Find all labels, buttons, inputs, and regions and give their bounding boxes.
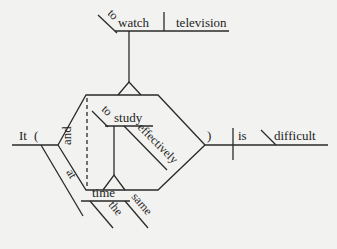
lower-frame xyxy=(58,145,205,190)
lower-infinitive-phrase: to study effectively xyxy=(92,102,181,190)
same-label: same xyxy=(129,190,156,218)
and-label: and xyxy=(59,126,74,145)
to-marker-label-2: to xyxy=(99,102,116,119)
time-label: time xyxy=(92,185,115,200)
open-paren-label: ( xyxy=(34,128,38,143)
watch-label: watch xyxy=(118,15,150,30)
prepositional-phrase: at time the same xyxy=(41,145,155,228)
study-label: study xyxy=(114,110,143,125)
at-slant-line xyxy=(41,145,83,216)
at-label: at xyxy=(63,167,80,182)
is-label: is xyxy=(238,128,247,143)
effectively-label: effectively xyxy=(135,120,181,166)
sentence-diagram: to watch television and to study effecti… xyxy=(0,0,337,249)
television-label: television xyxy=(176,15,227,30)
it-label: It xyxy=(19,128,27,143)
close-paren-label: ) xyxy=(207,128,211,143)
difficult-label: difficult xyxy=(274,128,316,143)
pedestal-foot xyxy=(118,82,141,95)
upper-infinitive-phrase: to watch television xyxy=(98,6,229,95)
